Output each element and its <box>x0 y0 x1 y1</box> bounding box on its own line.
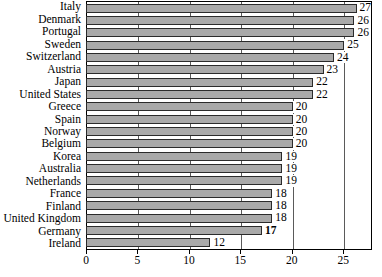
bar-row: 19 <box>87 150 371 162</box>
bar <box>86 127 293 136</box>
bar <box>86 176 282 185</box>
bar-value-label: 18 <box>272 188 287 200</box>
bar-row: 24 <box>87 51 371 63</box>
bar-row: 18 <box>87 187 371 199</box>
bar <box>86 115 293 124</box>
category-label: Netherlands <box>0 175 84 187</box>
bar-value-label: 20 <box>293 114 308 126</box>
bar-value-label: 19 <box>282 163 297 175</box>
bar <box>86 238 210 247</box>
x-tick-label: 20 <box>286 255 298 267</box>
bar-value-label: 19 <box>282 151 297 163</box>
bar-value-label: 26 <box>354 15 369 27</box>
bar-row: 25 <box>87 39 371 51</box>
bar-row: 18 <box>87 212 371 224</box>
category-label: Spain <box>0 113 84 125</box>
bar <box>86 4 357 13</box>
bar <box>86 226 262 235</box>
bar <box>86 28 354 37</box>
category-label: United Kingdom <box>0 213 84 225</box>
category-label: France <box>0 188 84 200</box>
bar-row: 17 <box>87 224 371 236</box>
category-label: Switzerland <box>0 51 84 63</box>
bar-row: 20 <box>87 101 371 113</box>
x-tick-label: 15 <box>235 255 247 267</box>
category-label: Australia <box>0 163 84 175</box>
category-axis-labels: ItalyDenmarkPortugalSwedenSwitzerlandAus… <box>0 1 84 250</box>
bar-row: 18 <box>87 200 371 212</box>
bar-value-label: 18 <box>272 200 287 212</box>
bar-row: 20 <box>87 138 371 150</box>
bar-value-label: 20 <box>293 126 308 138</box>
bar <box>86 78 313 87</box>
bar <box>86 189 272 198</box>
bar <box>86 102 293 111</box>
bar-value-label: 22 <box>313 76 328 88</box>
bar-value-label: 18 <box>272 212 287 224</box>
bar-value-label: 17 <box>262 225 277 237</box>
bar-value-label: 27 <box>357 2 372 14</box>
bar <box>86 65 324 74</box>
bar-value-label: 25 <box>344 39 359 51</box>
bar-row: 19 <box>87 162 371 174</box>
category-label: Norway <box>0 126 84 138</box>
bar-value-label: 23 <box>324 64 339 76</box>
bar <box>86 41 344 50</box>
bar-row: 20 <box>87 113 371 125</box>
bar-row: 12 <box>87 237 371 249</box>
bar <box>86 152 282 161</box>
x-tick-label: 5 <box>135 255 141 267</box>
bar-row: 27 <box>87 2 371 14</box>
category-label: Korea <box>0 150 84 162</box>
category-label: Denmark <box>0 13 84 25</box>
bar-chart: ItalyDenmarkPortugalSwedenSwitzerlandAus… <box>0 0 382 277</box>
bar <box>86 53 334 62</box>
category-label: Austria <box>0 63 84 75</box>
bar <box>86 90 313 99</box>
category-label: Portugal <box>0 26 84 38</box>
x-axis: 0510152025 <box>86 250 372 277</box>
bar-row: 26 <box>87 14 371 26</box>
bar-row: 23 <box>87 64 371 76</box>
category-label: Greece <box>0 101 84 113</box>
category-label: United States <box>0 88 84 100</box>
bar-row: 26 <box>87 27 371 39</box>
bar <box>86 214 272 223</box>
bar-value-label: 26 <box>354 27 369 39</box>
category-label: Japan <box>0 76 84 88</box>
bar-value-label: 22 <box>313 89 328 101</box>
bar <box>86 201 272 210</box>
category-label: Ireland <box>0 238 84 250</box>
bar <box>86 16 354 25</box>
bars-container: 2726262524232222202020201919191818181712 <box>87 2 371 249</box>
category-label: Belgium <box>0 138 84 150</box>
x-tick-label: 25 <box>337 255 349 267</box>
bar <box>86 139 293 148</box>
category-label: Germany <box>0 225 84 237</box>
x-tick-label: 0 <box>83 255 89 267</box>
bar-row: 20 <box>87 125 371 137</box>
bar-row: 22 <box>87 88 371 100</box>
category-label: Finland <box>0 200 84 212</box>
plot-area: 2726262524232222202020201919191818181712 <box>86 1 372 250</box>
bar-row: 22 <box>87 76 371 88</box>
bar-value-label: 20 <box>293 138 308 150</box>
x-tick-label: 10 <box>183 255 195 267</box>
bar-value-label: 24 <box>334 52 349 64</box>
bar-value-label: 19 <box>282 175 297 187</box>
bar-value-label: 12 <box>210 237 225 249</box>
bar-value-label: 20 <box>293 101 308 113</box>
category-label: Sweden <box>0 38 84 50</box>
category-label: Italy <box>0 1 84 13</box>
bar <box>86 164 282 173</box>
bar-row: 19 <box>87 175 371 187</box>
